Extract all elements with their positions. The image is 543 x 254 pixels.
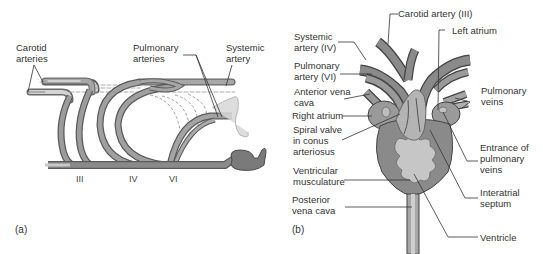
label-interatrial-septum: Interatrial septum [480, 187, 530, 209]
label-pulmonary-arteries: Pulmonary arteries [133, 42, 188, 64]
panel-b-tag: (b) [292, 224, 304, 235]
label-ventricular-musculature: Ventricular musculature [293, 165, 353, 187]
arch-label-VI: VI [169, 174, 178, 184]
panel-a-tag: (a) [15, 224, 27, 235]
label-pulmonary-veins: Pulmonary veins [481, 85, 531, 107]
label-pulmonary-artery-vi: Pulmonary artery (VI) [294, 60, 346, 82]
arch-label-IV: IV [129, 174, 138, 184]
panel-b-heart-drawing [0, 0, 543, 254]
label-left-atrium: Left atrium [452, 25, 497, 36]
label-right-atrium: Right atrium [292, 110, 343, 121]
label-carotid-artery-iii: Carotid artery (III) [398, 8, 472, 19]
label-carotid-arteries: Carotid arteries [16, 42, 66, 64]
label-ventricle: Ventricle [480, 232, 516, 243]
arch-label-III: III [76, 174, 84, 184]
label-systemic-artery: Systemic artery [226, 42, 271, 64]
label-systemic-artery-iv: Systemic artery (IV) [294, 31, 342, 53]
label-anterior-vena-cava: Anterior vena cava [294, 86, 354, 108]
label-entrance-pulmonary-veins: Entrance of pulmonary veins [480, 142, 535, 175]
label-posterior-vena-cava: Posterior vena cava [292, 194, 342, 216]
label-spiral-valve: Spiral valve in conus arteriosus [293, 124, 348, 157]
